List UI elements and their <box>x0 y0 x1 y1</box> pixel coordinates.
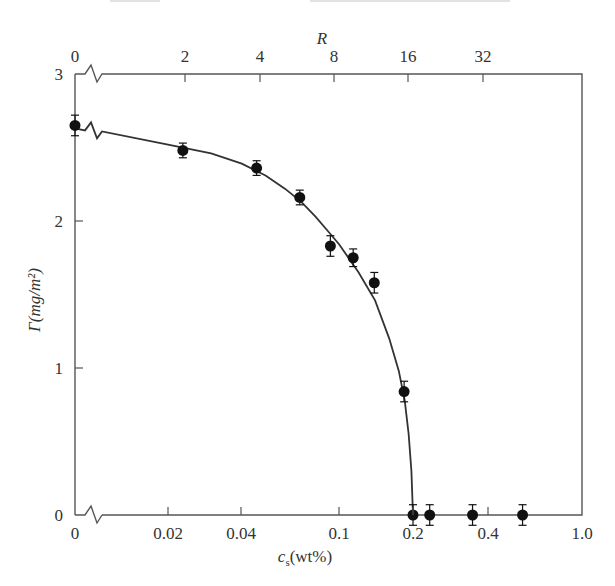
fit-curve <box>75 122 413 515</box>
left-axis-ticks: 0123 <box>55 65 84 525</box>
left-axis-title: Γ(mg/m²) <box>25 268 44 333</box>
x-title-unit: (wt%) <box>290 547 332 566</box>
data-point <box>70 115 81 136</box>
data-point <box>424 505 435 526</box>
top-axis-title: R <box>316 29 328 48</box>
top-tick-label: 2 <box>181 47 190 66</box>
top-axis-ticks: 02481632 <box>71 47 492 82</box>
top-tick-label: 8 <box>330 47 339 66</box>
data-point <box>399 381 410 402</box>
x-tick-label: 0.1 <box>328 524 349 543</box>
top-tick-label: 0 <box>71 47 80 66</box>
plot-frame <box>75 65 582 523</box>
bottom-axis-ticks: 00.020.040.10.20.41.0 <box>71 507 593 543</box>
y-tick-label: 3 <box>55 65 64 84</box>
x-tick-label: 1.0 <box>571 524 592 543</box>
top-tick-label: 4 <box>256 47 265 66</box>
y-tick-label: 1 <box>55 359 64 378</box>
bottom-axis-title: cs(wt%) <box>278 547 332 568</box>
y-tick-label: 0 <box>55 506 64 525</box>
data-point <box>294 190 305 205</box>
data-points <box>70 115 529 525</box>
x-tick-label: 0.02 <box>153 524 183 543</box>
adsorption-chart: 00.020.040.10.20.41.0 02481632 0123 R cs… <box>0 0 615 586</box>
y-tick-label: 2 <box>55 212 64 231</box>
data-point <box>177 143 188 158</box>
data-point <box>517 505 528 526</box>
top-tick-label: 32 <box>475 47 492 66</box>
data-point <box>369 272 380 293</box>
x-tick-label: 0.2 <box>402 524 423 543</box>
x-tick-label: 0.04 <box>226 524 256 543</box>
data-point <box>467 505 478 526</box>
x-tick-label: 0 <box>71 524 80 543</box>
data-point <box>348 249 359 267</box>
top-tick-label: 16 <box>400 47 417 66</box>
x-tick-label: 0.4 <box>477 524 499 543</box>
